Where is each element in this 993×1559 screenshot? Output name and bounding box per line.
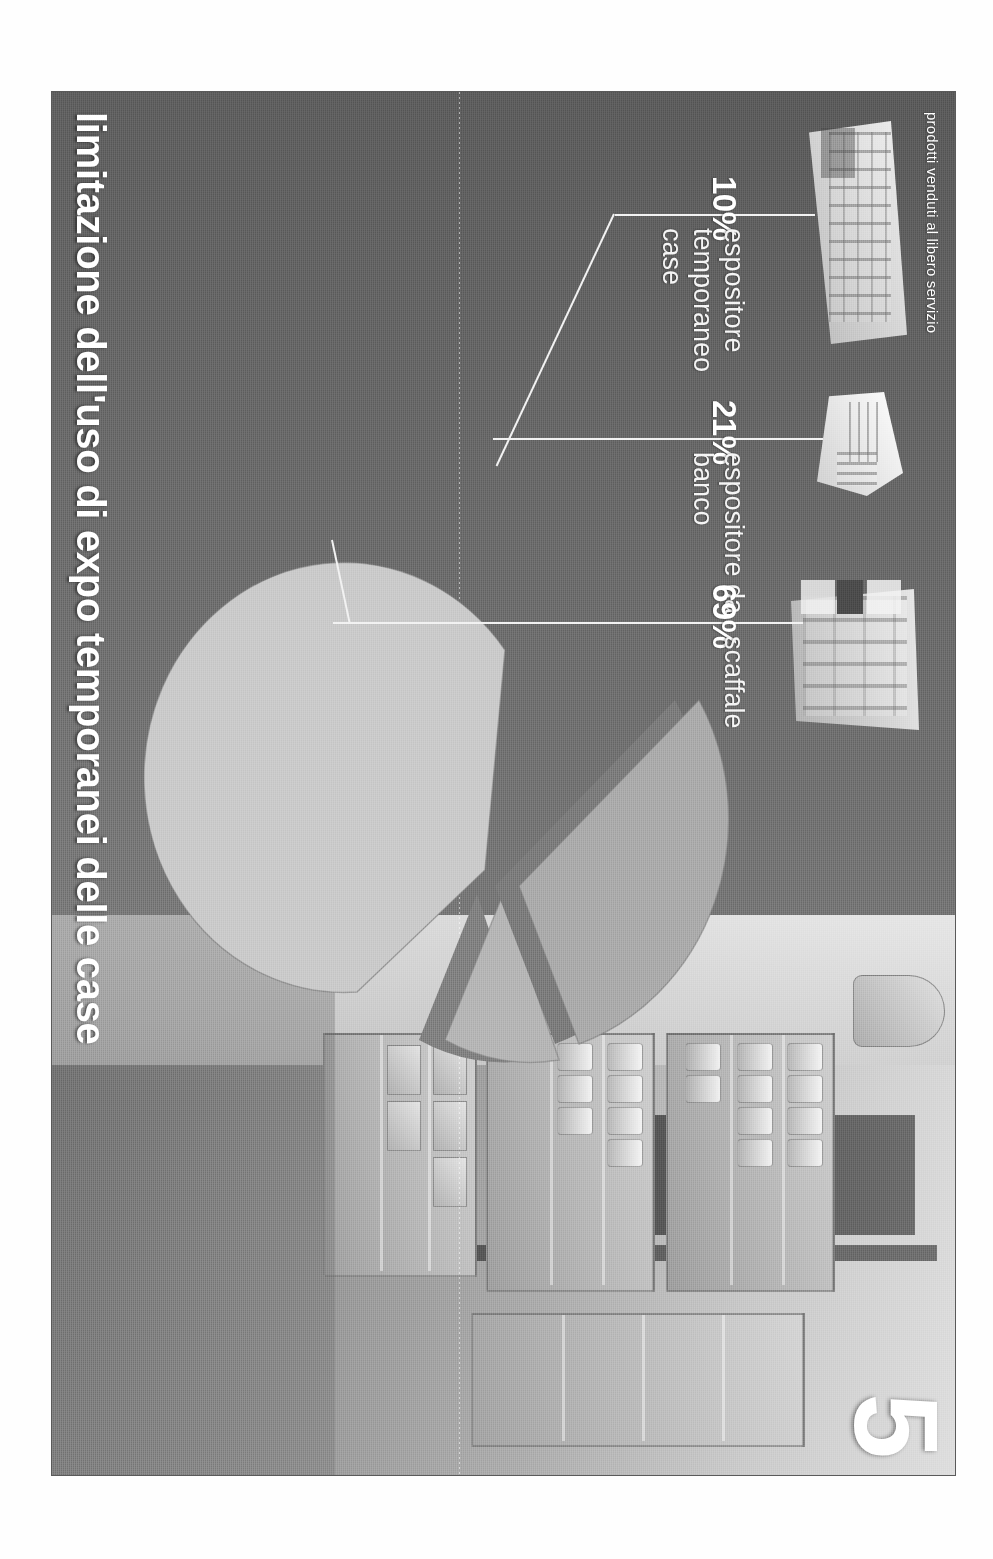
espositore-temporaneo-case-photo [809,114,909,344]
leader-line-21 [493,438,823,440]
slice-label-10: espositore temporaneo case [656,228,749,372]
leader-line-10-diagonal [496,214,615,467]
slice-label-69: scaffale [718,636,749,729]
scaffale-photo [791,580,919,730]
slide-caption: prodotti venduti al libero servizio [924,112,941,333]
scanned-page: prodotti venduti al libero servizio [0,0,993,1559]
pie-slice-espositore-temporaneo-case [195,640,755,1240]
pie-chart [195,640,755,1240]
slide-title-bar: limitazione dell'uso di expo temporanei … [52,92,130,1475]
page-title: limitazione dell'uso di expo temporanei … [69,92,114,1045]
presentation-slide: prodotti venduti al libero servizio [52,92,955,1475]
slide-number: 5 [841,1393,951,1459]
espositore-da-banco-photo [817,392,903,496]
